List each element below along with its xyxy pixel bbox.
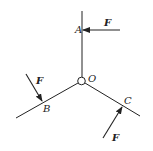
force-label-c: F <box>111 132 120 143</box>
point-label-a: A <box>74 24 82 35</box>
point-label-b: B <box>42 103 50 114</box>
point-label-o: O <box>88 73 96 84</box>
point-label-c: C <box>124 95 132 106</box>
rod-oc <box>85 83 140 116</box>
force-label-a: F <box>103 17 112 28</box>
force-diagram: A F O B F C F <box>0 0 153 151</box>
hinge-o <box>78 77 86 85</box>
force-label-b: F <box>35 75 44 86</box>
